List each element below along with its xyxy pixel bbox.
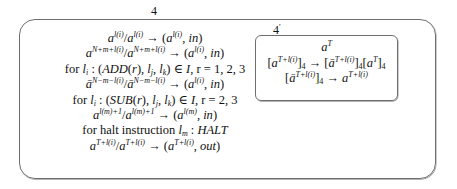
inner-rule-dissolve: [āT+l(i)]4 → aT+l(i) <box>256 71 397 87</box>
rule-8: aT+l(i)/aT+l(i) → (aT+l(i), out) <box>60 139 250 154</box>
inner-object: aT <box>256 40 397 56</box>
inner-rule-division: [aT+l(i)]4 → [āT+l(i)]4[aT]4 <box>256 56 397 72</box>
rule-6: al(m)+1/al(m)+1 → (al(m), in) <box>60 108 250 123</box>
rule-2: aN+m+l(i)/aN+m+l(i) → (al(i), in) <box>60 46 250 61</box>
inner-membrane-contents: aT [aT+l(i)]4 → [āT+l(i)]4[aT]4 [āT+l(i)… <box>256 40 397 87</box>
rule-list: al(i)/al(i) → (al(i), in) aN+m+l(i)/aN+m… <box>60 31 250 154</box>
rule-3-condition: for li : (ADD(r), lj, lk) ∈ I, r = 1, 2,… <box>60 62 250 77</box>
arrow-icon: → <box>168 77 181 91</box>
arrow-icon: → <box>309 56 322 70</box>
arrow-icon: → <box>326 71 339 85</box>
rule-7-condition: for halt instruction lm : HALT <box>60 123 250 138</box>
outer-membrane-label: 4 <box>151 5 157 17</box>
arrow-icon: → <box>158 108 171 122</box>
arrow-icon: → <box>148 139 161 153</box>
rule-1: al(i)/al(i) → (al(i), in) <box>60 31 250 46</box>
arrow-icon: → <box>168 46 181 60</box>
rule-4: āN−m−l(i)/āN−m−l(i) → (al(i), in) <box>60 77 250 92</box>
rule-5-condition: for li : (SUB(r), lj, lk) ∈ I, r = 2, 3 <box>60 93 250 108</box>
arrow-icon: → <box>146 31 159 45</box>
